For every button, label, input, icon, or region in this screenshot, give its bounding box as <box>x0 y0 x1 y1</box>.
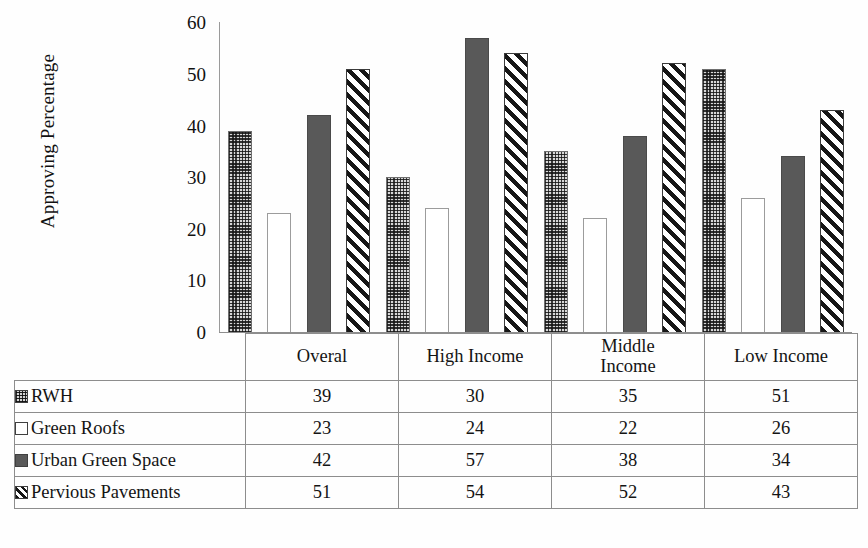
value-cell-urban-green-space-high-income: 57 <box>399 445 552 477</box>
y-axis-tick-labels: 60 50 40 30 20 10 0 <box>150 0 206 333</box>
bar-slot-green-roofs <box>260 22 300 332</box>
value-cell-rwh-high-income: 30 <box>399 381 552 413</box>
value-cell-green-roofs-low-income: 26 <box>705 413 858 445</box>
bar-pervious-pavements-low-income <box>820 110 844 332</box>
value-cell-pervious-pavements-high-income: 54 <box>399 477 552 509</box>
bar-slot-pervious-pavements <box>339 22 379 332</box>
legend-cell-urban-green-space: Urban Green Space <box>15 445 246 477</box>
column-header-middle-income-line2: Income <box>552 357 704 377</box>
bar-urban-green-space-overal <box>307 115 331 332</box>
value-cell-urban-green-space-overal: 42 <box>246 445 399 477</box>
bar-green-roofs-low-income <box>741 198 765 332</box>
bar-rwh-low-income <box>702 69 726 333</box>
table-header-row: Overal High Income Middle Income Low Inc… <box>15 334 858 381</box>
y-tick-60: 60 <box>150 13 206 32</box>
bar-slot-urban-green-space <box>457 22 497 332</box>
value-cell-green-roofs-middle-income: 22 <box>552 413 705 445</box>
data-table: Overal High Income Middle Income Low Inc… <box>14 333 858 509</box>
bar-slot-rwh <box>378 22 418 332</box>
bar-slot-urban-green-space <box>299 22 339 332</box>
y-axis-title: Approving Percentage <box>37 11 59 271</box>
y-tick-40: 40 <box>150 117 206 136</box>
column-header-middle-income-line1: Middle <box>552 337 704 357</box>
chart-page: Approving Percentage 60 50 40 30 20 10 0… <box>0 0 868 548</box>
table-row: Urban Green Space42573834 <box>15 445 858 477</box>
y-tick-30: 30 <box>150 168 206 187</box>
bar-slot-rwh <box>536 22 576 332</box>
value-cell-rwh-low-income: 51 <box>705 381 858 413</box>
value-cell-pervious-pavements-low-income: 43 <box>705 477 858 509</box>
value-cell-urban-green-space-middle-income: 38 <box>552 445 705 477</box>
bar-pervious-pavements-middle-income <box>662 63 686 332</box>
bar-urban-green-space-middle-income <box>623 136 647 332</box>
column-header-low-income: Low Income <box>705 334 858 381</box>
legend-cell-rwh: RWH <box>15 381 246 413</box>
table-row: Green Roofs23242226 <box>15 413 858 445</box>
bar-slot-urban-green-space <box>615 22 655 332</box>
bar-rwh-middle-income <box>544 151 568 332</box>
bar-chart-plot: Approving Percentage 60 50 40 30 20 10 0 <box>0 0 868 333</box>
value-cell-pervious-pavements-overal: 51 <box>246 477 399 509</box>
bar-green-roofs-overal <box>267 213 291 332</box>
bar-slot-pervious-pavements <box>813 22 853 332</box>
dotted-stipple-icon <box>15 390 28 403</box>
solid-gray-icon <box>15 454 28 467</box>
bar-urban-green-space-high-income <box>465 38 489 333</box>
bar-group-low-income <box>694 22 852 332</box>
value-cell-urban-green-space-low-income: 34 <box>705 445 858 477</box>
column-header-high-income: High Income <box>399 334 552 381</box>
value-cell-rwh-overal: 39 <box>246 381 399 413</box>
bar-slot-rwh <box>220 22 260 332</box>
bar-slot-pervious-pavements <box>655 22 695 332</box>
value-cell-rwh-middle-income: 35 <box>552 381 705 413</box>
bar-rwh-high-income <box>386 177 410 332</box>
bar-urban-green-space-low-income <box>781 156 805 332</box>
white-outline-icon <box>15 422 28 435</box>
bar-slot-green-roofs <box>734 22 774 332</box>
bar-group-middle-income <box>536 22 694 332</box>
bar-pervious-pavements-overal <box>346 69 370 333</box>
bar-slot-green-roofs <box>418 22 458 332</box>
bar-slot-urban-green-space <box>773 22 813 332</box>
table-body: RWH39303551Green Roofs23242226Urban Gree… <box>15 381 858 509</box>
legend-label: RWH <box>31 386 73 406</box>
bar-green-roofs-middle-income <box>583 218 607 332</box>
column-header-overal: Overal <box>246 334 399 381</box>
legend-label: Pervious Pavements <box>31 482 181 502</box>
bar-slot-pervious-pavements <box>497 22 537 332</box>
bar-green-roofs-high-income <box>425 208 449 332</box>
y-tick-10: 10 <box>150 271 206 290</box>
diagonal-hatch-icon <box>15 486 28 499</box>
bar-slot-green-roofs <box>576 22 616 332</box>
bar-slot-rwh <box>694 22 734 332</box>
y-tick-20: 20 <box>150 220 206 239</box>
bars-container <box>220 22 852 332</box>
value-cell-green-roofs-overal: 23 <box>246 413 399 445</box>
bar-pervious-pavements-high-income <box>504 53 528 332</box>
table-row: RWH39303551 <box>15 381 858 413</box>
legend-label: Urban Green Space <box>31 450 176 470</box>
value-cell-green-roofs-high-income: 24 <box>399 413 552 445</box>
value-cell-pervious-pavements-middle-income: 52 <box>552 477 705 509</box>
table-row: Pervious Pavements51545243 <box>15 477 858 509</box>
legend-label: Green Roofs <box>31 418 125 438</box>
bar-group-overal <box>220 22 378 332</box>
table-corner-cell <box>15 334 246 381</box>
bar-rwh-overal <box>228 131 252 333</box>
column-header-middle-income: Middle Income <box>552 334 705 381</box>
legend-cell-green-roofs: Green Roofs <box>15 413 246 445</box>
legend-cell-pervious-pavements: Pervious Pavements <box>15 477 246 509</box>
bar-group-high-income <box>378 22 536 332</box>
y-tick-50: 50 <box>150 65 206 84</box>
